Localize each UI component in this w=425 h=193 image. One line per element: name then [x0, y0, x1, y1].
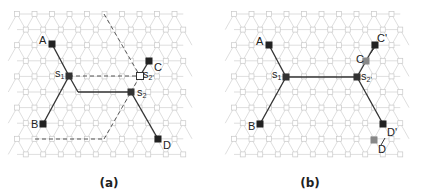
terminal-A — [49, 41, 56, 48]
caption-a: (a) — [79, 176, 139, 190]
caption-b: (b) — [280, 176, 340, 190]
panel-b: A B C C' D D' s1 s2' (b) — [212, 0, 425, 193]
steiner-s1 — [66, 73, 73, 80]
label-C: C — [154, 61, 162, 73]
terminal-B — [40, 121, 47, 128]
label-s2: s2 — [137, 86, 147, 99]
terminal-D — [155, 136, 162, 143]
terminal-D-original — [371, 137, 378, 144]
label-s1: s1 — [272, 68, 282, 81]
label-D: D — [378, 143, 386, 155]
steiner-s2 — [128, 89, 135, 96]
lattice-diagram-b: A B C C' D D' s1 s2' — [212, 0, 425, 193]
terminal-C — [146, 58, 153, 65]
label-C-prime: C' — [377, 32, 387, 44]
panel-a: A B C D s1 s2 s2' (a) — [0, 0, 212, 193]
label-B: B — [31, 118, 38, 130]
label-B: B — [248, 120, 255, 132]
steiner-s2-prime — [354, 74, 361, 81]
steiner-tree — [260, 45, 383, 124]
label-C: C — [356, 53, 364, 65]
label-s1: s1 — [55, 67, 65, 80]
lattice-grid — [8, 12, 192, 157]
terminal-A — [266, 42, 273, 49]
terminal-B — [257, 121, 264, 128]
label-s2-prime: s2' — [143, 68, 154, 81]
label-s2-prime: s2' — [361, 70, 372, 83]
label-D-prime: D' — [387, 126, 397, 138]
steiner-s1 — [283, 74, 290, 81]
label-A: A — [256, 35, 264, 47]
label-A: A — [39, 34, 47, 46]
terminal-D-prime — [380, 121, 387, 128]
label-D: D — [163, 139, 171, 151]
lattice-diagram-a: A B C D s1 s2 s2' — [0, 0, 212, 193]
